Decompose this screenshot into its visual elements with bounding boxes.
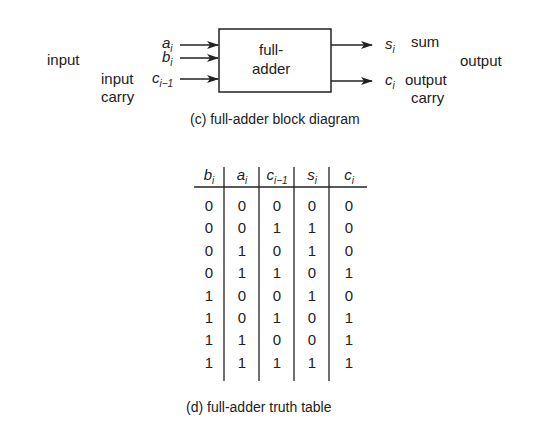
table-cell: 0	[194, 264, 224, 281]
table-cell: 1	[227, 264, 257, 281]
table-cell: 0	[334, 219, 364, 236]
table-cell: 1	[262, 219, 292, 236]
table-cell: 0	[262, 197, 292, 214]
output-var-s: si	[385, 35, 395, 55]
table-cell: 1	[297, 219, 327, 236]
input-carry-label-line2: carry	[101, 88, 134, 105]
table-cell: 0	[227, 197, 257, 214]
input-var-b: bi	[162, 48, 173, 68]
input-carry-label-line1: input	[101, 70, 134, 87]
table-cell: 0	[227, 309, 257, 326]
header-b: bi	[192, 166, 226, 186]
table-cell: 0	[227, 287, 257, 304]
table-cell: 0	[227, 219, 257, 236]
table-cell: 1	[194, 309, 224, 326]
box-label-line1: full-	[259, 41, 283, 58]
table-cell: 1	[262, 309, 292, 326]
table-cell: 0	[194, 219, 224, 236]
table-cell: 1	[334, 354, 364, 371]
table-cell: 1	[334, 309, 364, 326]
table-cell: 1	[334, 331, 364, 348]
block-diagram-caption: (c) full-adder block diagram	[190, 111, 360, 127]
input-var-c: ci−1	[152, 69, 173, 89]
output-var-c: ci	[385, 71, 395, 91]
table-cell: 1	[334, 264, 364, 281]
table-cell: 0	[334, 287, 364, 304]
header-s: si	[295, 166, 329, 186]
table-cell: 0	[262, 242, 292, 259]
table-cell: 0	[297, 264, 327, 281]
table-cell: 0	[297, 197, 327, 214]
table-cell: 0	[194, 242, 224, 259]
input-group-label: input	[47, 51, 80, 68]
table-cell: 0	[334, 197, 364, 214]
table-cell: 0	[194, 197, 224, 214]
table-cell: 1	[194, 331, 224, 348]
table-cell: 1	[262, 354, 292, 371]
table-cell: 0	[334, 242, 364, 259]
table-cell: 1	[227, 331, 257, 348]
table-cell: 1	[297, 242, 327, 259]
output-group-label: output	[460, 52, 502, 69]
truth-table-caption: (d) full-adder truth table	[186, 399, 332, 415]
header-c-in: ci−1	[260, 166, 294, 186]
box-label-line2: adder	[252, 60, 290, 77]
table-cell: 0	[297, 309, 327, 326]
output-carry-label-line1: output	[405, 71, 447, 88]
table-cell: 1	[262, 264, 292, 281]
table-cell: 0	[262, 331, 292, 348]
table-cell: 1	[227, 242, 257, 259]
table-cell: 1	[194, 287, 224, 304]
header-a: ai	[225, 166, 259, 186]
table-cell: 1	[297, 287, 327, 304]
table-cell: 0	[297, 331, 327, 348]
table-cell: 1	[227, 354, 257, 371]
table-cell: 1	[194, 354, 224, 371]
sum-label: sum	[411, 33, 439, 50]
table-cell: 0	[262, 287, 292, 304]
table-cell: 1	[297, 354, 327, 371]
output-carry-label-line2: carry	[411, 89, 444, 106]
header-c-out: ci	[332, 166, 366, 186]
